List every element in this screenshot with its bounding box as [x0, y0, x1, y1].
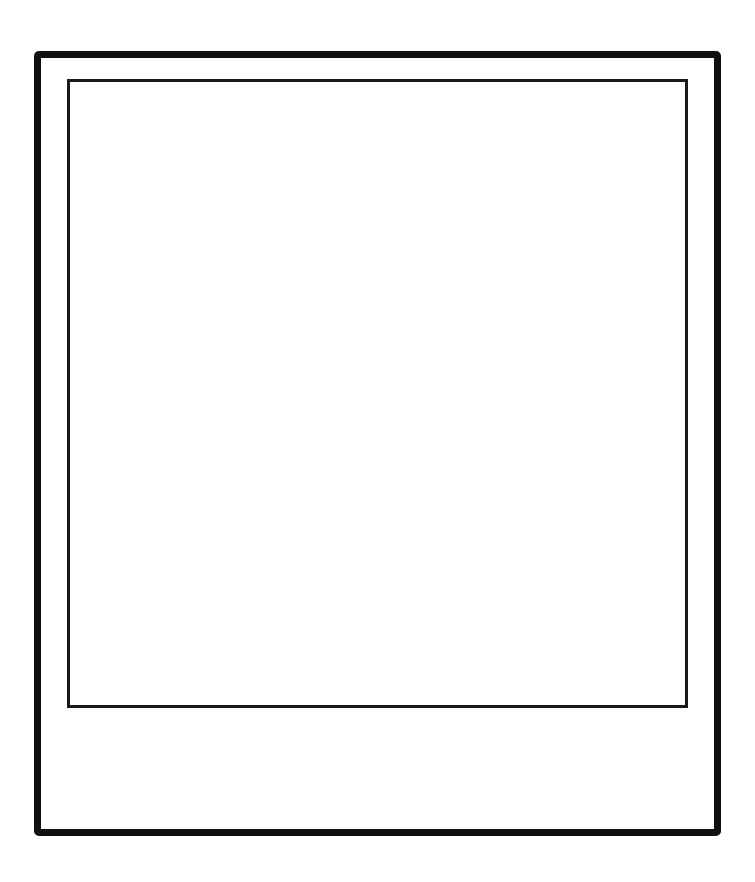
photo-area: [67, 79, 688, 708]
caption-area: [41, 712, 714, 829]
